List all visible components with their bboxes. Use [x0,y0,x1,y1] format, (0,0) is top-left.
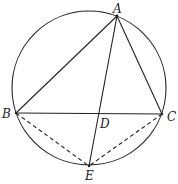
segment-ac [117,16,162,114]
label-c: C [167,110,176,124]
point-e-marker [88,165,90,167]
geometry-diagram: A B C D E [0,0,178,184]
point-b-marker [15,112,17,114]
segment-be-dashed [16,113,89,166]
diagram-svg: A B C D E [0,0,178,184]
point-c-marker [161,113,163,115]
circumcircle [12,11,166,165]
segment-bc [16,113,162,114]
label-d: D [99,117,110,131]
label-b: B [1,107,11,121]
label-e: E [84,169,94,183]
label-a: A [112,2,122,16]
